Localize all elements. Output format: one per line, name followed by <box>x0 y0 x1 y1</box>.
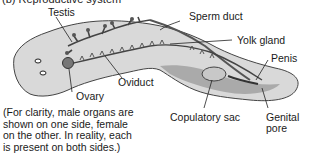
note-line: is present on both sides.) <box>3 142 173 154</box>
note-line: on the other. In reality, each <box>3 130 173 142</box>
copulatory-sac-shape <box>202 67 226 81</box>
label-copulatory-sac: Copulatory sac <box>170 112 240 123</box>
label-oviduct: Oviduct <box>118 77 154 88</box>
label-penis: Penis <box>271 53 297 64</box>
label-genital-pore: Genital pore <box>266 112 299 134</box>
label-testis: Testis <box>48 7 75 18</box>
eyespot-icon <box>40 71 46 75</box>
clarity-note: (For clarity, male organs are shown on o… <box>3 107 173 153</box>
ovary-shape <box>63 58 74 69</box>
note-line: (For clarity, male organs are <box>3 107 173 119</box>
label-genital-pore-line2: pore <box>266 122 287 134</box>
label-ovary: Ovary <box>76 91 104 102</box>
eyespot-icon <box>35 59 41 63</box>
label-yolk-gland: Yolk gland <box>237 35 285 46</box>
label-sperm-duct: Sperm duct <box>189 11 243 22</box>
